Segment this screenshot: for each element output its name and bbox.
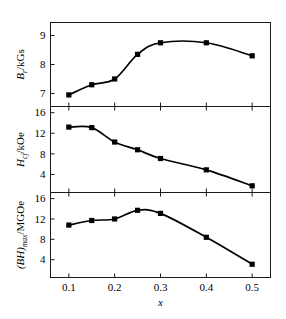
data-point-marker — [112, 76, 117, 81]
data-point-marker — [204, 167, 209, 172]
y-tick-label: 7 — [40, 87, 46, 99]
series-line — [69, 41, 252, 95]
y-tick-label: 9 — [40, 29, 46, 41]
x-tick-label: 0.2 — [108, 281, 122, 293]
data-point-marker — [158, 40, 163, 45]
x-tick-label: 0.1 — [62, 281, 76, 293]
panel-bottom: 481216 — [35, 192, 271, 277]
panel-middle: 481216 — [35, 106, 271, 192]
y-tick-label: 12 — [35, 127, 46, 139]
data-point-marker — [135, 208, 140, 213]
data-point-marker — [112, 216, 117, 221]
y-axis-title-middle: Hcj/kOe — [14, 132, 29, 168]
y-tick-label: 8 — [40, 233, 46, 245]
y-tick-label: 16 — [35, 192, 47, 204]
series-line — [69, 210, 252, 265]
data-point-marker — [112, 139, 117, 144]
panel-frame — [51, 23, 271, 107]
y-tick-label: 8 — [40, 148, 46, 160]
data-point-marker — [204, 235, 209, 240]
data-point-marker — [89, 218, 94, 223]
data-point-marker — [135, 147, 140, 152]
x-axis: 0.10.20.30.40.5x — [62, 281, 260, 308]
y-tick-label: 4 — [40, 168, 46, 180]
y-axis-title-top: Br/kGs — [14, 49, 29, 79]
data-point-marker — [66, 92, 71, 97]
data-point-marker — [89, 82, 94, 87]
panel-frame — [51, 193, 271, 278]
y-tick-label: 12 — [35, 213, 46, 225]
figure-container: 7894812164812160.10.20.30.40.5xBr/kGsHcj… — [0, 0, 286, 319]
data-point-marker — [66, 125, 71, 130]
data-point-marker — [66, 222, 71, 227]
data-point-marker — [135, 52, 140, 57]
y-tick-label: 8 — [40, 58, 46, 70]
x-tick-label: 0.5 — [245, 281, 259, 293]
panel-top: 789 — [40, 23, 271, 107]
data-point-marker — [250, 262, 255, 267]
data-point-marker — [250, 53, 255, 58]
y-axis-title-bottom: (BH)max/MGOe — [14, 201, 29, 269]
y-tick-label: 4 — [40, 253, 46, 265]
data-point-marker — [250, 183, 255, 188]
data-point-marker — [158, 156, 163, 161]
data-point-marker — [89, 125, 94, 130]
x-axis-title: x — [157, 296, 163, 308]
data-point-marker — [204, 40, 209, 45]
x-tick-label: 0.3 — [154, 281, 168, 293]
multi-panel-line-chart: 7894812164812160.10.20.30.40.5xBr/kGsHcj… — [0, 0, 286, 319]
data-point-marker — [158, 211, 163, 216]
x-tick-label: 0.4 — [199, 281, 213, 293]
y-tick-label: 16 — [35, 106, 47, 118]
